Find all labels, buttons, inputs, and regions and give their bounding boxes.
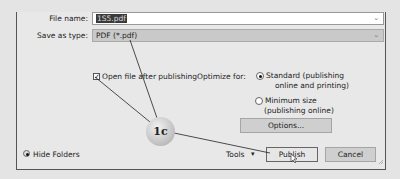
callout-lines: [0, 0, 400, 179]
callout-badge: 1c: [146, 117, 175, 146]
